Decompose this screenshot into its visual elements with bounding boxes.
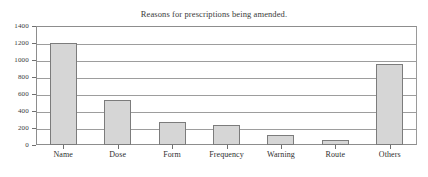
bar-slot [145, 26, 199, 145]
y-tick-label-800: 800 [18, 73, 29, 81]
x-tick-mark-others [390, 145, 391, 149]
x-tick-mark-name [63, 145, 64, 149]
bar-slot [90, 26, 144, 145]
x-tick-mark-warning [281, 145, 282, 149]
y-tick-label-1200: 1200 [14, 39, 29, 47]
x-label-form: Form [163, 150, 181, 159]
bar-series [36, 26, 417, 145]
bar-slot [36, 26, 90, 145]
x-label-route: Route [326, 150, 346, 159]
x-tick-mark-dose [118, 145, 119, 149]
x-axis-labels: NameDoseFormFrequencyWarningRouteOthers [36, 150, 417, 166]
y-tick-label-1000: 1000 [14, 56, 29, 64]
x-label-warning: Warning [267, 150, 295, 159]
bar-warning[interactable] [267, 135, 294, 145]
y-tick-label-0: 0 [25, 141, 29, 149]
y-axis: 0200400600800100012001400 [0, 26, 36, 145]
chart-title: Reasons for prescriptions being amended. [0, 9, 428, 19]
bar-form[interactable] [159, 122, 186, 145]
x-label-frequency: Frequency [209, 150, 244, 159]
y-tick-label-200: 200 [18, 124, 29, 132]
x-tick-mark-route [335, 145, 336, 149]
bar-slot [199, 26, 253, 145]
x-label-name: Name [53, 150, 73, 159]
bar-slot [308, 26, 362, 145]
x-tick-mark-frequency [227, 145, 228, 149]
bar-others[interactable] [376, 64, 403, 145]
bar-chart: Reasons for prescriptions being amended.… [0, 0, 428, 177]
bar-name[interactable] [50, 43, 77, 145]
y-tick-label-600: 600 [18, 90, 29, 98]
y-tick-label-1400: 1400 [14, 22, 29, 30]
x-label-dose: Dose [109, 150, 126, 159]
bar-frequency[interactable] [213, 125, 240, 145]
x-label-others: Others [379, 150, 401, 159]
bar-dose[interactable] [104, 100, 131, 145]
bar-slot [254, 26, 308, 145]
x-tick-mark-form [172, 145, 173, 149]
x-axis-ticks [36, 145, 417, 149]
bar-slot [363, 26, 417, 145]
y-tick-label-400: 400 [18, 107, 29, 115]
